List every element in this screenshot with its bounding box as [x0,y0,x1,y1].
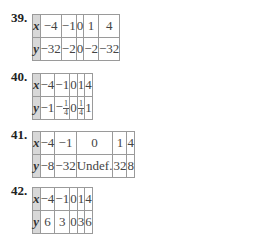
problem-number: 40. [11,69,27,85]
x-label: x [33,15,41,38]
denominator: 4 [63,109,69,117]
y-cell: −2 [61,38,76,61]
y-label: y [33,155,41,178]
y-cell: 14 [77,97,85,120]
y-cell: 3 [77,211,85,234]
y-cell: 3 [55,211,70,234]
problem-number: 41. [11,127,27,143]
x-cell: −1 [55,188,70,211]
y-cell: Undef. [76,155,113,178]
y-cell: 6 [40,211,55,234]
y-label: y [33,211,41,234]
y-cell: 1 [85,97,93,120]
y-label: y [33,38,41,61]
x-row: x −4 −1 0 1 4 [33,132,135,155]
x-cell: 0 [76,15,84,38]
x-cell: −1 [55,132,76,155]
x-cell: −4 [40,74,55,97]
x-cell: 1 [77,188,85,211]
y-cell: −32 [40,38,61,61]
y-cell: −14 [55,97,70,120]
x-cell: −4 [40,188,55,211]
x-cell: 4 [85,74,93,97]
x-cell: 1 [77,74,85,97]
x-cell: −1 [55,74,70,97]
x-cell: −1 [61,15,76,38]
y-cell: 6 [85,211,93,234]
y-cell: 0 [70,97,78,120]
y-row: y 6 3 0 3 6 [33,211,93,234]
x-cell: 1 [84,15,99,38]
y-cell: −32 [55,155,76,178]
x-cell: −4 [40,132,55,155]
x-row: x −4 −1 0 1 4 [33,15,120,38]
y-cell: −1 [40,97,55,120]
x-label: x [33,188,41,211]
x-cell: 0 [76,132,113,155]
fraction: 14 [78,100,84,117]
x-row: x −4 −1 0 1 4 [33,74,93,97]
denominator: 4 [78,109,84,117]
x-cell: 4 [99,15,120,38]
x-cell: 0 [70,188,78,211]
y-cell: 0 [76,38,84,61]
minus-sign: − [56,99,63,114]
problem-number: 42. [11,183,27,199]
x-cell: −4 [40,15,61,38]
x-cell: 0 [70,74,78,97]
y-cell: −32 [99,38,120,61]
x-cell: 4 [127,132,135,155]
y-cell: 0 [70,211,78,234]
problem-number: 39. [11,10,27,26]
xy-table: x −4 −1 0 1 4 y −1 −14 0 14 1 [32,73,93,120]
x-cell: 4 [85,188,93,211]
xy-table: x −4 −1 0 1 4 y −32 −2 0 −2 −32 [32,14,120,61]
y-cell: −2 [84,38,99,61]
fraction: 14 [63,100,69,117]
x-cell: 1 [113,132,127,155]
x-label: x [33,132,41,155]
y-row: y −1 −14 0 14 1 [33,97,93,120]
x-label: x [33,74,41,97]
xy-table: x −4 −1 0 1 4 y 6 3 0 3 6 [32,187,93,234]
y-cell: 8 [127,155,135,178]
xy-table: x −4 −1 0 1 4 y −8 −32 Undef. 32 8 [32,131,135,178]
y-row: y −8 −32 Undef. 32 8 [33,155,135,178]
y-label: y [33,97,41,120]
x-row: x −4 −1 0 1 4 [33,188,93,211]
y-cell: −8 [40,155,55,178]
y-row: y −32 −2 0 −2 −32 [33,38,120,61]
y-cell: 32 [113,155,127,178]
